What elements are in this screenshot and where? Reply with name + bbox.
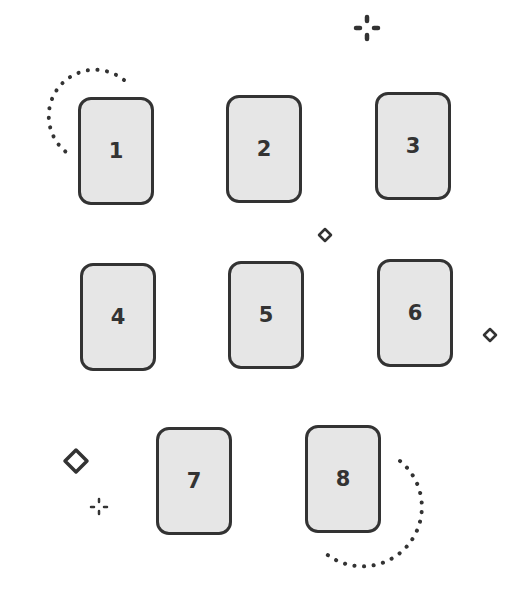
card-number: 2	[257, 137, 272, 161]
card-number: 7	[187, 469, 202, 493]
diamond-icon	[319, 229, 331, 241]
card-slot-1: 1	[78, 97, 154, 205]
sparkle-icon	[91, 499, 107, 514]
card-slot-2: 2	[226, 95, 302, 203]
card-slot-4: 4	[80, 263, 156, 371]
diamond-icon	[484, 329, 496, 341]
card-number: 8	[336, 467, 351, 491]
card-number: 4	[111, 305, 126, 329]
card-number: 6	[408, 301, 423, 325]
diamond-icon	[65, 450, 87, 472]
card-number: 1	[109, 139, 124, 163]
card-spread-diagram: 1 2 3 4 5 6 7 8	[0, 0, 512, 602]
card-slot-7: 7	[156, 427, 232, 535]
card-slot-3: 3	[375, 92, 451, 200]
card-number: 3	[406, 134, 421, 158]
card-number: 5	[259, 303, 274, 327]
sparkle-icon	[356, 17, 378, 39]
card-slot-5: 5	[228, 261, 304, 369]
card-slot-8: 8	[305, 425, 381, 533]
card-slot-6: 6	[377, 259, 453, 367]
